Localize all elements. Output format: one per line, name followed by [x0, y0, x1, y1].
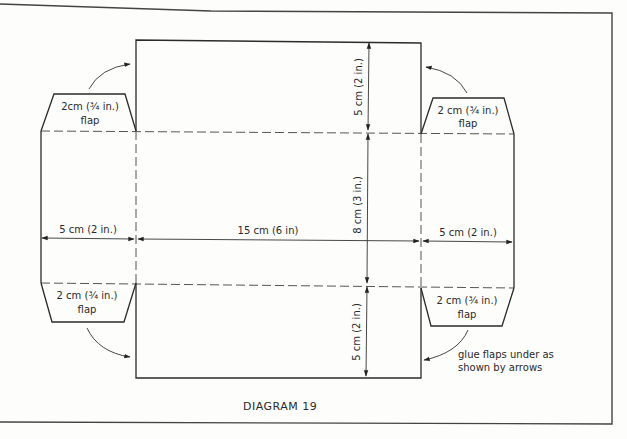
flap-top-right-size: 2 cm (¾ in.) — [438, 105, 499, 116]
flap-bottom-left-label: flap — [78, 304, 97, 315]
flap-bottom-left: 2 cm (¾ in.) flap — [41, 283, 136, 322]
page-border — [0, 4, 612, 424]
flap-top-right: 2 cm (¾ in.) flap — [421, 98, 514, 134]
flap-top-left-label: flap — [81, 115, 100, 126]
dim-top-height: 5 cm (2 in.) — [353, 58, 364, 116]
fold-lines — [41, 131, 514, 288]
note-line-1: glue flaps under as — [458, 349, 554, 360]
vertical-dimensions: 5 cm (2 in.) 8 cm (3 in.) 5 cm (2 in.) — [351, 43, 369, 376]
flap-bottom-left-size: 2 cm (¾ in.) — [57, 290, 118, 301]
box-template-diagram: 2cm (¾ in.) flap 2 cm (¾ in.) flap 2 cm … — [0, 0, 627, 439]
dim-right-width: 5 cm (2 in.) — [439, 227, 497, 238]
flap-top-left-size: 2cm (¾ in.) — [61, 101, 119, 112]
center-panel-outline — [136, 40, 421, 378]
dim-center-width: 15 cm (6 in) — [238, 225, 299, 236]
arrow-icon — [426, 67, 467, 93]
note-line-2: shown by arrows — [458, 362, 542, 373]
dim-left-width: 5 cm (2 in.) — [59, 224, 117, 235]
diagram-caption: DIAGRAM 19 — [243, 400, 317, 413]
dim-bottom-height: 5 cm (2 in.) — [351, 303, 362, 361]
arrow-icon — [87, 328, 130, 357]
flap-bottom-right-size: 2 cm (¾ in.) — [437, 295, 498, 306]
dim-middle-height: 8 cm (3 in.) — [352, 176, 363, 234]
glue-arrows — [87, 64, 468, 360]
flap-bottom-right-label: flap — [458, 309, 477, 320]
arrow-icon — [89, 64, 130, 89]
flap-top-left: 2cm (¾ in.) flap — [41, 94, 136, 131]
flap-bottom-right: 2 cm (¾ in.) flap — [421, 288, 514, 326]
horizontal-dimensions: 5 cm (2 in.) 15 cm (6 in) 5 cm (2 in.) — [42, 224, 512, 242]
flap-top-right-label: flap — [459, 118, 478, 129]
glue-note: glue flaps under as shown by arrows — [458, 349, 554, 373]
